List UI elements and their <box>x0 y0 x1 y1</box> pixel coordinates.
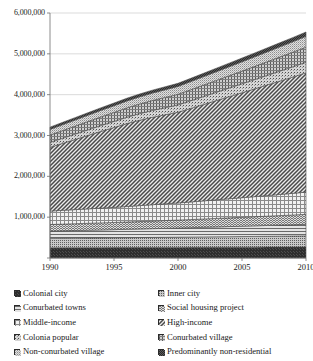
chart-series-areas <box>50 32 306 258</box>
legend-swatch-icon <box>14 319 20 325</box>
y-axis-tick-label: 6,000,000 <box>0 9 45 17</box>
x-axis-tick-label: 2005 <box>217 263 267 272</box>
legend-item[interactable]: Non-conurbated village <box>14 344 159 359</box>
legend-swatch-icon <box>158 349 164 355</box>
legend-item[interactable]: Conurbated village <box>158 330 313 345</box>
legend-swatch-icon <box>158 305 164 311</box>
legend-label: Colonial city <box>23 289 68 298</box>
legend-swatch-icon <box>158 319 164 325</box>
legend-label: Conurbated village <box>167 333 233 342</box>
legend-swatch-icon <box>14 290 20 296</box>
legend-item[interactable]: Social housing project <box>158 301 313 316</box>
legend-item[interactable]: Colonia popular <box>14 330 159 345</box>
legend-item[interactable]: Predominantly non-residential <box>158 344 313 359</box>
legend-swatch-icon <box>158 334 164 340</box>
legend-label: Social housing project <box>167 303 244 312</box>
stacked-area-chart: 1,000,0002,000,0003,000,0004,000,0005,00… <box>0 0 313 285</box>
legend-swatch-icon <box>14 305 20 311</box>
chart-plot-svg <box>0 0 313 285</box>
legend-swatch-icon <box>14 334 20 340</box>
legend-label: Middle-income <box>23 318 76 327</box>
legend-item[interactable]: Middle-income <box>14 315 159 330</box>
legend-item[interactable]: High-income <box>158 315 313 330</box>
series-area-colonial-city <box>50 247 306 258</box>
legend-label: Conurbated towns <box>23 303 86 312</box>
legend-label: Inner city <box>167 289 200 298</box>
legend-column-right: Inner citySocial housing projectHigh-inc… <box>158 286 313 359</box>
x-axis-tick-label: 1990 <box>25 263 75 272</box>
y-axis-tick-label: 5,000,000 <box>0 50 45 58</box>
legend-swatch-icon <box>14 349 20 355</box>
legend-item[interactable]: Conurbated towns <box>14 301 159 316</box>
x-axis-tick-label: 1995 <box>89 263 139 272</box>
y-axis-tick-label: 1,000,000 <box>0 213 45 221</box>
y-axis-tick-label: 2,000,000 <box>0 172 45 180</box>
legend-swatch-icon <box>158 290 164 296</box>
legend-column-left: Colonial cityConurbated townsMiddle-inco… <box>14 286 159 359</box>
y-axis-tick-label: 3,000,000 <box>0 132 45 140</box>
legend-label: Colonia popular <box>23 333 79 342</box>
chart-legend: Colonial cityConurbated townsMiddle-inco… <box>0 286 313 361</box>
y-axis-tick-label: 4,000,000 <box>0 91 45 99</box>
legend-label: Predominantly non-residential <box>167 347 271 356</box>
legend-item[interactable]: Colonial city <box>14 286 159 301</box>
legend-item[interactable]: Inner city <box>158 286 313 301</box>
x-axis-tick-label: 2000 <box>153 263 203 272</box>
x-axis-tick-label: 2010 <box>281 263 313 272</box>
legend-label: Non-conurbated village <box>23 347 104 356</box>
chart-screenshot: 1,000,0002,000,0003,000,0004,000,0005,00… <box>0 0 313 361</box>
legend-label: High-income <box>167 318 212 327</box>
